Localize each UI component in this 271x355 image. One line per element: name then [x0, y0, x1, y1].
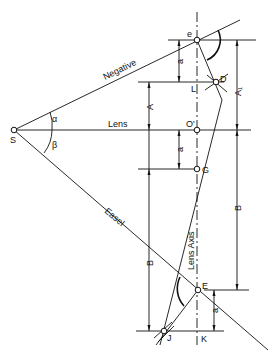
arrow: [178, 40, 181, 46]
angle-arc-top: [207, 30, 220, 60]
arrow: [148, 82, 151, 88]
arrow: [236, 130, 239, 136]
label-a-top: a: [175, 59, 185, 64]
label-a1: A₁: [233, 87, 243, 96]
point-g: [194, 166, 200, 172]
label-j: J: [167, 333, 172, 343]
arrow: [236, 284, 239, 290]
label-b-left: B: [145, 260, 155, 266]
label-lens: Lens: [108, 119, 128, 129]
easel-line: [14, 130, 268, 350]
arrow: [178, 76, 181, 82]
point-s: [11, 127, 17, 133]
arrow: [178, 130, 181, 136]
diagram-canvas: Negative Lens Easel Lens Axis S e D L O'…: [0, 0, 271, 355]
arrow: [236, 40, 239, 46]
point-d: [213, 79, 219, 85]
label-s: S: [10, 135, 16, 145]
arrow: [148, 325, 151, 331]
e-to-j-line: [156, 290, 198, 345]
point-e: [194, 37, 200, 43]
label-l: L: [191, 84, 196, 94]
point-o-prime: [194, 127, 200, 133]
label-lens-axis: Lens Axis: [186, 231, 196, 270]
arrow: [148, 124, 151, 130]
label-b-right: B: [233, 205, 243, 211]
beta-arc: [44, 130, 52, 153]
label-alpha: α: [52, 114, 57, 124]
arrow: [178, 163, 181, 169]
scheimpflug-diagram: Negative Lens Easel Lens Axis S e D L O'…: [0, 0, 271, 355]
label-a-mid: a: [175, 147, 185, 152]
negative-line: [14, 20, 240, 130]
arrow: [213, 290, 216, 296]
point-j: [161, 328, 167, 334]
arrow: [213, 325, 216, 331]
label-e-big: E: [202, 281, 208, 291]
label-a-big: A: [145, 104, 155, 110]
angle-arc-bottom: [177, 277, 184, 306]
label-k: K: [201, 334, 207, 344]
label-o-prime: O': [186, 119, 195, 129]
arrow: [148, 169, 151, 175]
label-e: e: [187, 29, 192, 39]
label-g: G: [202, 165, 209, 175]
point-e-big: [195, 287, 201, 293]
arrow: [236, 124, 239, 130]
label-a-bottom: a: [210, 308, 220, 313]
label-d: D: [220, 74, 227, 84]
label-beta: β: [52, 140, 57, 150]
